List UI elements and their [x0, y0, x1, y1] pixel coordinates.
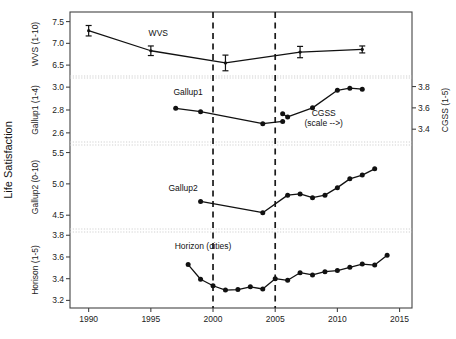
ytick-label-gallup1-3: 3.0: [52, 82, 64, 92]
data-point-6: [335, 185, 340, 190]
annotation-cgss: CGSS: [312, 108, 336, 118]
data-point-9: [298, 270, 303, 275]
ytick-label-horizon-3.8: 3.8: [52, 230, 64, 240]
data-point-1: [198, 277, 203, 282]
ytick-label-gallup2-5.5: 5.5: [52, 148, 64, 158]
series-line: [176, 108, 283, 123]
data-point-2: [285, 193, 290, 198]
data-point-1: [198, 109, 203, 114]
ytick-label-wvs-6.5: 6.5: [52, 60, 64, 70]
data-point-3: [223, 288, 228, 293]
data-point-2: [260, 121, 265, 126]
data-point-2: [224, 61, 227, 64]
data-point-0: [173, 106, 178, 111]
data-point-3: [335, 88, 340, 93]
data-point-1: [260, 210, 265, 215]
series-horizon-cities-: [186, 253, 390, 293]
data-point-5: [322, 193, 327, 198]
series-line: [201, 169, 375, 213]
annotation-cgss-scale: (scale -->): [304, 118, 343, 128]
panel-wvs: 6.57.07.5WVS (1-10): [30, 17, 365, 71]
data-point-4: [310, 195, 315, 200]
data-point-4: [347, 86, 352, 91]
ytick-label-wvs-7: 7.0: [52, 38, 64, 48]
data-point-13: [347, 265, 352, 270]
right-ytick-label-3.4: 3.4: [418, 124, 430, 134]
x-tick-label-2015: 2015: [390, 314, 409, 324]
panel-gallup1: 2.62.83.0Gallup1 (1-4)3.43.63.8CGSS (1-5…: [30, 82, 450, 138]
data-point-7: [347, 176, 352, 181]
data-point-5: [360, 87, 365, 92]
annotation-horizon: Horizon (cities): [175, 241, 232, 251]
data-point-9: [372, 166, 377, 171]
ytick-label-gallup2-4.5: 4.5: [52, 210, 64, 220]
data-point-8: [285, 278, 290, 283]
ytick-label-horizon-3.4: 3.4: [52, 274, 64, 284]
series-line: [188, 255, 387, 290]
ytick-label-gallup2-5: 5.0: [52, 179, 64, 189]
panel-ylabel-horizon: Horison (1-5): [30, 245, 40, 295]
data-point-7: [273, 276, 278, 281]
data-point-14: [360, 262, 365, 267]
chart-root: 199019952000200520102015Life Satisfactio…: [0, 0, 456, 339]
ytick-label-horizon-3.6: 3.6: [52, 252, 64, 262]
data-point-3: [298, 191, 303, 196]
x-tick-label-1995: 1995: [141, 314, 160, 324]
ytick-label-gallup1-2.6: 2.6: [52, 128, 64, 138]
right-ytick-label-3.6: 3.6: [418, 103, 430, 113]
data-point-6: [260, 287, 265, 292]
data-point-3: [280, 119, 285, 124]
ytick-label-wvs-7.5: 7.5: [52, 17, 64, 27]
series-wvs: [86, 25, 366, 70]
data-point-2: [211, 283, 216, 288]
data-point-4: [361, 48, 364, 51]
data-point-0: [280, 111, 285, 116]
series-gallup1: [173, 106, 285, 126]
annotation-wvs: WVS: [149, 28, 169, 38]
data-point-3: [298, 50, 301, 53]
data-point-5: [248, 284, 253, 289]
annotation-gallup2: Gallup2: [169, 183, 199, 193]
data-point-15: [372, 263, 377, 268]
data-point-4: [235, 287, 240, 292]
x-tick-label-2010: 2010: [328, 314, 347, 324]
panel-ylabel-wvs: WVS (1-10): [30, 22, 40, 67]
ytick-label-gallup1-2.8: 2.8: [52, 105, 64, 115]
data-point-10: [310, 272, 315, 277]
x-tick-label-2000: 2000: [204, 314, 223, 324]
panel-ylabel-gallup2: Gallup2 (0-10): [30, 160, 40, 215]
y-axis-title: Life Satisfaction: [2, 121, 14, 199]
ytick-label-horizon-3.2: 3.2: [52, 295, 64, 305]
data-point-0: [198, 199, 203, 204]
x-tick-label-2005: 2005: [266, 314, 285, 324]
data-point-11: [322, 269, 327, 274]
data-point-16: [385, 253, 390, 258]
data-point-0: [87, 29, 90, 32]
series-annotations: WVSGallup1CGSS(scale -->)Gallup2Horizon …: [149, 28, 344, 251]
series-gallup2: [198, 166, 377, 215]
panel-right-ylabel-gallup1: CGSS (1-5): [440, 88, 450, 133]
data-point-1: [149, 49, 152, 52]
panel-ylabel-gallup1: Gallup1 (1-4): [30, 85, 40, 135]
x-tick-label-1990: 1990: [79, 314, 98, 324]
data-point-8: [360, 173, 365, 178]
annotation-gallup1: Gallup1: [173, 87, 203, 97]
data-point-1: [285, 114, 290, 119]
data-point-12: [335, 268, 340, 273]
chart-y-label: Life Satisfaction: [2, 121, 14, 199]
data-point-0: [186, 262, 191, 267]
x-axis: 199019952000200520102015: [79, 308, 409, 324]
life-satisfaction-multipanel-chart: 199019952000200520102015Life Satisfactio…: [0, 0, 456, 339]
right-ytick-label-3.8: 3.8: [418, 82, 430, 92]
panel-gallup2: 4.55.05.5Gallup2 (0-10): [30, 148, 377, 221]
